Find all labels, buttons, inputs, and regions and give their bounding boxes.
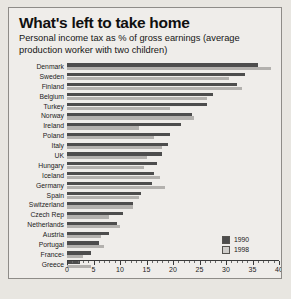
bar-1998 [67,265,91,268]
x-tick-minor [210,261,211,263]
x-tick-minor [231,261,232,263]
x-tick-minor [115,261,116,263]
chart-row: Norway [67,111,279,121]
x-tick-minor [131,261,132,263]
bar-1998 [67,97,207,100]
bar-1998 [67,126,139,129]
x-tick [120,261,121,265]
chart-row: UK [67,151,279,161]
category-label: Finland [42,82,64,92]
category-label: Italy [52,141,64,151]
chart-row: Belgium [67,92,279,102]
category-label: Spain [47,191,64,201]
chart-row: Denmark [67,62,279,72]
category-label: UK [55,151,64,161]
chart-row: Netherlands [67,220,279,230]
x-tick-minor [99,261,100,263]
x-tick-minor [72,261,73,263]
bar-1998 [67,67,271,70]
category-label: Denmark [36,62,64,72]
x-tick-minor [83,261,84,263]
legend-item-1998: 1998 [222,245,249,254]
bar-1998 [67,77,229,80]
x-tick [173,261,174,265]
x-tick-label: 25 [196,266,204,273]
chart-title: What's left to take home [19,14,189,32]
x-tick-minor [125,261,126,263]
bar-1998 [67,136,154,139]
category-label: Netherlands [27,220,64,230]
bar-1998 [67,156,147,159]
x-tick-label: 0 [65,266,69,273]
legend-swatch-1998 [222,246,230,254]
x-tick-label: 40 [275,266,282,273]
legend-label-1990: 1990 [234,236,249,243]
category-label: Switzerland [29,200,64,210]
bar-1998 [67,235,101,238]
x-tick-minor [221,261,222,263]
x-tick-minor [141,261,142,263]
bar-1998 [67,166,144,169]
chart-row: Finland [67,82,279,92]
x-tick-label: 30 [222,266,230,273]
category-label: Poland [43,131,64,141]
chart-legend: 1990 1998 [222,235,249,255]
chart-row: Germany [67,181,279,191]
legend-swatch-1990 [222,236,230,244]
x-tick-label: 10 [116,266,124,273]
x-tick-minor [247,261,248,263]
bar-1998 [67,245,104,248]
category-label: Austria [43,230,64,240]
x-tick-minor [152,261,153,263]
category-label: Portugal [39,240,64,250]
x-tick-minor [242,261,243,263]
x-tick [226,261,227,265]
x-tick-minor [274,261,275,263]
chart-row: Hungary [67,161,279,171]
chart-row: Czech Rep [67,210,279,220]
x-tick-label: 35 [249,266,257,273]
bar-1998 [67,87,242,90]
chart-row: Turkey [67,102,279,112]
x-tick [94,261,95,265]
chart-subtitle: Personal income tax as % of gross earnin… [19,33,277,56]
x-tick-minor [184,261,185,263]
x-tick-minor [237,261,238,263]
bar-1998 [67,146,162,149]
x-tick-label: 15 [143,266,151,273]
x-tick-minor [88,261,89,263]
bar-1998 [67,215,109,218]
x-tick [253,261,254,265]
bar-1998 [67,255,83,258]
x-tick [279,261,280,265]
x-tick-minor [268,261,269,263]
category-label: Sweden [39,72,64,82]
bar-1998 [67,205,133,208]
legend-item-1990: 1990 [222,235,249,244]
category-label: Hungary [38,161,64,171]
x-tick-label: 20 [169,266,177,273]
chart-row: Italy [67,141,279,151]
category-label: Norway [41,111,64,121]
bar-1998 [67,116,194,119]
category-label: Turkey [43,102,64,112]
category-label: Belgium [39,92,64,102]
bar-1998 [67,107,170,110]
chart-row: Sweden [67,72,279,82]
category-label: Czech Rep [30,210,64,220]
bar-1998 [67,186,165,189]
x-tick-minor [205,261,206,263]
x-tick [147,261,148,265]
x-tick-minor [104,261,105,263]
chart-row: Iceland [67,171,279,181]
x-tick-minor [178,261,179,263]
x-tick-minor [194,261,195,263]
x-tick [200,261,201,265]
category-label: Ireland [43,121,64,131]
x-tick-minor [189,261,190,263]
x-tick-minor [136,261,137,263]
x-tick-minor [109,261,110,263]
x-tick-label: 5 [92,266,96,273]
x-tick-minor [78,261,79,263]
x-tick-minor [258,261,259,263]
